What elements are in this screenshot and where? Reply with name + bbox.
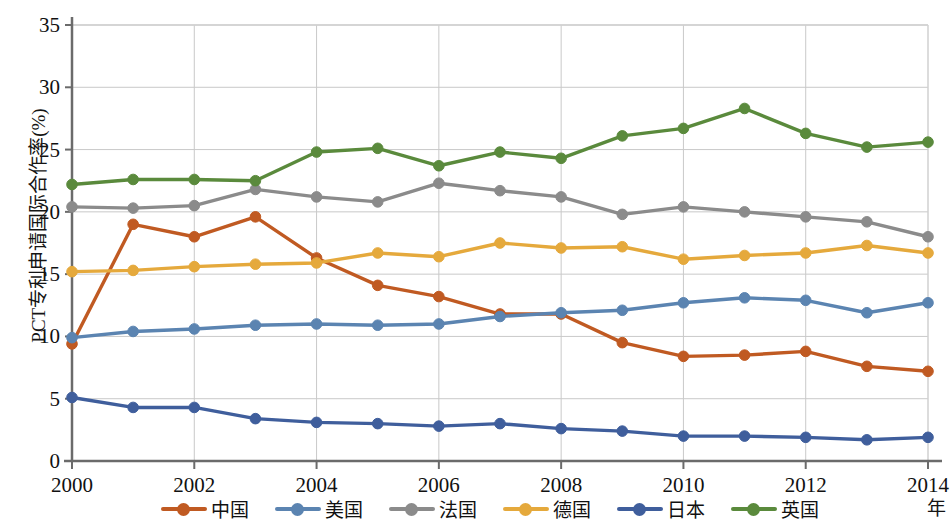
data-point: [495, 147, 506, 158]
data-point: [862, 240, 873, 251]
data-point: [372, 197, 383, 208]
data-point: [678, 297, 689, 308]
data-point: [495, 311, 506, 322]
data-point: [311, 258, 322, 269]
data-point: [800, 212, 811, 223]
data-point: [739, 103, 750, 114]
legend-item-美国[interactable]: 美国: [275, 495, 363, 522]
data-point: [617, 426, 628, 437]
data-point: [923, 231, 934, 242]
data-point: [495, 185, 506, 196]
data-point: [617, 131, 628, 142]
data-point: [434, 178, 445, 189]
data-point: [800, 346, 811, 357]
data-point: [923, 432, 934, 443]
data-point: [923, 248, 934, 259]
legend-marker-dot: [633, 503, 646, 516]
legend-swatch-icon: [731, 501, 777, 517]
data-point: [556, 153, 567, 164]
legend-item-英国[interactable]: 英国: [731, 495, 819, 522]
data-point: [739, 250, 750, 261]
data-point: [250, 413, 261, 424]
data-point: [739, 293, 750, 304]
data-point: [311, 417, 322, 428]
data-point: [67, 179, 78, 190]
data-point: [189, 324, 200, 335]
data-point: [434, 421, 445, 432]
data-point: [311, 192, 322, 203]
data-point: [678, 123, 689, 134]
data-point: [189, 231, 200, 242]
legend-swatch-icon: [503, 501, 549, 517]
data-point: [739, 207, 750, 218]
legend-item-德国[interactable]: 德国: [503, 495, 591, 522]
data-point: [434, 291, 445, 302]
legend-swatch-icon: [617, 501, 663, 517]
data-point: [556, 192, 567, 203]
legend-marker-dot: [177, 503, 190, 516]
data-point: [250, 212, 261, 223]
legend-swatch-icon: [389, 501, 435, 517]
legend-swatch-icon: [275, 501, 321, 517]
data-point: [862, 307, 873, 318]
data-point: [128, 326, 139, 337]
data-point: [128, 402, 139, 413]
data-point: [556, 243, 567, 254]
data-point: [250, 175, 261, 186]
data-point: [617, 209, 628, 220]
legend-item-法国[interactable]: 法国: [389, 495, 477, 522]
data-point: [372, 143, 383, 154]
data-point: [128, 219, 139, 230]
data-point: [434, 251, 445, 262]
data-point: [189, 174, 200, 185]
legend-marker-dot: [747, 503, 760, 516]
data-point: [739, 350, 750, 361]
data-point: [372, 418, 383, 429]
data-point: [678, 351, 689, 362]
data-point: [250, 320, 261, 331]
data-point: [923, 366, 934, 377]
data-point: [617, 241, 628, 252]
data-point: [495, 418, 506, 429]
data-point: [495, 238, 506, 249]
data-point: [372, 280, 383, 291]
legend-label: 法国: [439, 495, 477, 522]
legend-label: 英国: [781, 495, 819, 522]
legend-label: 美国: [325, 495, 363, 522]
plot-area: [0, 0, 950, 524]
data-point: [189, 402, 200, 413]
data-point: [189, 261, 200, 272]
legend-label: 中国: [211, 495, 249, 522]
legend-marker-dot: [519, 503, 532, 516]
legend-marker-dot: [405, 503, 418, 516]
legend-item-日本[interactable]: 日本: [617, 495, 705, 522]
data-point: [617, 305, 628, 316]
data-point: [862, 217, 873, 228]
data-point: [67, 266, 78, 277]
data-point: [678, 202, 689, 213]
data-point: [250, 259, 261, 270]
data-point: [923, 297, 934, 308]
data-point: [678, 431, 689, 442]
data-point: [189, 200, 200, 211]
chart-container: PCT专利申请国际合作率(%) 年 05101520253035 2000200…: [0, 0, 950, 524]
data-point: [739, 431, 750, 442]
data-point: [617, 337, 628, 348]
data-point: [67, 332, 78, 343]
data-point: [556, 307, 567, 318]
data-point: [311, 147, 322, 158]
data-point: [862, 435, 873, 446]
data-point: [128, 203, 139, 214]
data-point: [372, 248, 383, 259]
legend-item-中国[interactable]: 中国: [161, 495, 249, 522]
data-point: [128, 174, 139, 185]
data-point: [67, 202, 78, 213]
data-point: [923, 137, 934, 148]
data-point: [67, 392, 78, 403]
data-point: [800, 432, 811, 443]
legend-swatch-icon: [161, 501, 207, 517]
data-point: [862, 361, 873, 372]
chart-legend: 中国美国法国德国日本英国: [0, 495, 950, 522]
data-point: [434, 319, 445, 330]
legend-label: 德国: [553, 495, 591, 522]
